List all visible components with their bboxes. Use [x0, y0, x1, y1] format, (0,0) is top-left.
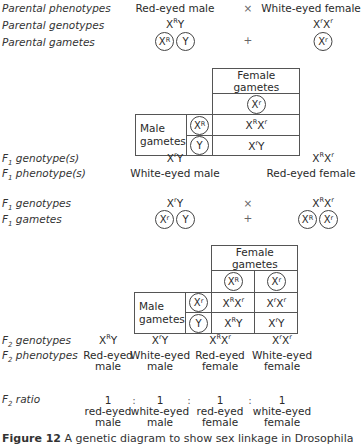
parental-genotypes-label: Parental genotypes	[2, 19, 104, 31]
offspring-cell: XRXr	[213, 115, 300, 136]
f2-ratio-item: 1red-eyedfemale	[197, 395, 244, 428]
f1-cross-symbol: ×	[244, 197, 253, 209]
f1-cross-female-genotype: XRXr	[312, 197, 334, 209]
offspring-cell: XrXr	[255, 293, 298, 313]
parental-male-genotype: XRY	[166, 18, 184, 30]
gamete-circle: Y	[176, 210, 195, 229]
parental-gametes-label: Parental gametes	[2, 36, 95, 48]
male-gamete-cell: Y	[185, 313, 212, 334]
f2-phenotype: White-eyedfemale	[252, 350, 312, 372]
f2-phenotype: Red-eyedfemale	[195, 350, 245, 372]
f1-cross-male-genotype: XrY	[167, 197, 183, 209]
f1-female-phenotype: Red-eyed female	[266, 167, 355, 179]
punnett-square-2: Female gametes XR Xr Malegametes Xr XRXr…	[134, 245, 298, 334]
offspring-cell: XrY	[255, 313, 298, 334]
f2-ratio-item: 1white-eyedfemale	[253, 395, 311, 428]
punnett-square-1: Female gametes Xr Malegametes XR XRXr Y …	[135, 68, 300, 156]
gamete-circle: Xr	[319, 210, 338, 229]
f1-gametes-label: F1 gametes	[2, 213, 62, 228]
gamete-circle: Xr	[314, 32, 333, 51]
female-gametes-header: Female gametes	[212, 246, 298, 271]
offspring-cell: XRY	[212, 313, 255, 334]
female-gamete-cell: Xr	[213, 94, 300, 115]
f1-cross-genotypes-label: F1 genotypes	[2, 197, 71, 212]
male-gamete-cell: Y	[186, 136, 213, 156]
figure-caption: Figure 12 A genetic diagram to show sex …	[2, 432, 353, 445]
f2-phenotype: Red-eyedmale	[83, 350, 133, 372]
female-gamete-cell: Xr	[255, 271, 298, 293]
male-gamete-cell: Xr	[185, 293, 212, 313]
f2-genotypes-label: F2 genotypes	[2, 334, 71, 349]
female-gamete-cell: XR	[212, 271, 255, 293]
f1-male-gametes: XrY	[154, 210, 196, 229]
parental-plus-symbol: +	[244, 34, 253, 46]
parental-male-phenotype: Red-eyed male	[136, 2, 215, 14]
f2-phenotype: White-eyedmale	[130, 350, 190, 372]
parental-female-phenotype: White-eyed female	[261, 2, 361, 14]
f1-genotypes-label: F1 genotype(s)	[2, 152, 79, 167]
f1-male-phenotype: White-eyed male	[130, 167, 220, 179]
f2-genotype: XRY	[99, 334, 117, 346]
f1-plus-symbol: +	[244, 212, 253, 224]
gamete-circle: Xr	[155, 210, 174, 229]
gamete-circle: XR	[155, 32, 174, 51]
parental-female-gametes: Xr	[313, 32, 334, 51]
male-gamete-cell: XR	[186, 115, 213, 136]
f2-genotype: XRXr	[209, 334, 231, 346]
gamete-circle: XR	[298, 210, 317, 229]
offspring-cell: XrY	[213, 136, 300, 156]
ratio-separator: :	[248, 394, 252, 406]
female-gametes-header: Female gametes	[213, 69, 300, 94]
ratio-separator: :	[187, 394, 191, 406]
f1-male-genotype: XrY	[167, 152, 183, 164]
f1-phenotypes-label: F1 phenotype(s)	[2, 167, 86, 182]
offspring-cell: XRXr	[212, 293, 255, 313]
f2-genotype: XrXr	[272, 334, 292, 346]
male-gametes-header: Malegametes	[136, 115, 187, 156]
f1-female-gametes: XRXr	[297, 210, 339, 229]
parental-female-genotype: XrXr	[313, 18, 333, 30]
male-gametes-header: Malegametes	[135, 293, 186, 334]
f2-ratio-item: 1red-eyedmale	[85, 395, 132, 428]
gamete-circle: Y	[176, 32, 195, 51]
parental-phenotypes-label: Parental phenotypes	[2, 2, 111, 14]
f2-ratio-item: 1white-eyedmale	[131, 395, 189, 428]
f2-genotype: XrY	[152, 334, 168, 346]
f1-female-genotype: XRXr	[312, 152, 334, 164]
f2-phenotypes-label: F2 phenotypes	[2, 349, 78, 364]
parental-male-gametes: XRY	[154, 32, 196, 51]
parental-cross-symbol: ×	[244, 2, 253, 14]
f2-ratio-label: F2 ratio	[2, 393, 40, 408]
